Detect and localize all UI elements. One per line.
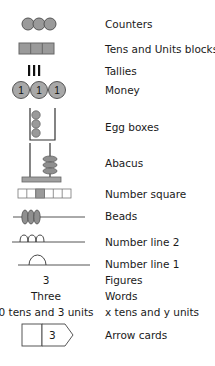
counters-icon: [22, 18, 56, 30]
arrow-card-value: 3: [49, 329, 56, 341]
tallies-icon: [28, 65, 40, 76]
label-egg-boxes: Egg boxes: [105, 121, 159, 133]
arrow-cards-icon: [22, 324, 73, 346]
label-arrow-cards: Arrow cards: [105, 329, 167, 341]
svg-text:1: 1: [36, 85, 42, 96]
label-figures: Figures: [105, 274, 143, 286]
number-line-2-icon: [12, 235, 85, 242]
number-line-1-icon: [18, 255, 90, 265]
label-number-line-2: Number line 2: [105, 236, 179, 248]
label-beads: Beads: [105, 210, 137, 222]
label-money: Money: [105, 84, 140, 96]
label-words: Words: [105, 290, 137, 302]
label-x-tens-y-units: x tens and y units: [105, 306, 199, 318]
abacus-icon: [22, 143, 61, 182]
egg-boxes-icon: [30, 108, 55, 140]
money-icon: 1 1 1: [13, 82, 66, 99]
label-counters: Counters: [105, 18, 152, 30]
tens-units-example: 0 tens and 3 units: [0, 306, 96, 318]
label-number-square: Number square: [105, 188, 186, 200]
label-number-line-1: Number line 1: [105, 258, 179, 270]
label-abacus: Abacus: [105, 157, 143, 169]
tens-units-blocks-icon: [19, 43, 54, 54]
label-tallies: Tallies: [105, 65, 137, 77]
svg-text:1: 1: [18, 85, 24, 96]
label-tens-units-blocks: Tens and Units blocks: [105, 43, 215, 55]
figures-example: 3: [0, 274, 96, 286]
svg-text:1: 1: [54, 85, 60, 96]
number-square-icon: [18, 189, 71, 198]
words-example: Three: [0, 290, 96, 302]
beads-icon: [13, 210, 85, 224]
